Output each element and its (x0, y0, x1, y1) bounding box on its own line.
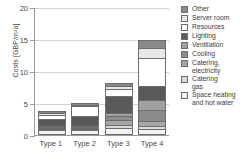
y-axis-tick-label: 20 (20, 4, 28, 13)
bar-segment[interactable] (72, 117, 98, 127)
chart-root: Costs [GBP/m²a] 05101520 Type 1Type 2Typ… (0, 0, 252, 167)
bar-segment[interactable] (139, 41, 165, 49)
legend-item[interactable]: Catering gas (181, 75, 252, 90)
legend-item-label: Other (192, 5, 209, 13)
bar-segment[interactable] (139, 101, 165, 110)
y-axis-title: Costs [GBP/m²a] (12, 6, 19, 96)
x-axis-label: Type 1 (34, 139, 68, 148)
y-axis-tick (30, 136, 35, 137)
legend-swatch-icon (181, 24, 188, 31)
bar-slot (136, 8, 170, 135)
x-axis-labels: Type 1Type 2Type 3Type 4 (34, 139, 169, 148)
legend-swatch-icon (181, 51, 188, 58)
legend-item[interactable]: Space heating and hot water (181, 91, 252, 106)
legend-item[interactable]: Catering, electricity (181, 59, 252, 74)
legend-swatch-icon (181, 92, 188, 99)
bar-group (35, 8, 169, 135)
legend-swatch-icon (181, 76, 188, 83)
legend-item[interactable]: Cooling (181, 50, 252, 58)
legend-swatch-icon (181, 15, 188, 22)
legend-swatch-icon (181, 6, 188, 13)
legend-item[interactable]: Ventilation (181, 41, 252, 49)
x-axis-label: Type 4 (135, 139, 169, 148)
x-axis-label: Type 3 (102, 139, 136, 148)
y-axis-tick-label: 5 (24, 100, 28, 109)
legend-item[interactable]: Server room (181, 14, 252, 22)
legend-item-label: Server room (192, 14, 229, 22)
y-axis-tick-label: 0 (24, 132, 28, 141)
legend-item-label: Ventilation (192, 41, 223, 49)
legend-item-label: Cooling (192, 50, 215, 58)
legend-item[interactable]: Lighting (181, 32, 252, 40)
stacked-bar[interactable] (38, 111, 66, 135)
bar-segment[interactable] (72, 131, 98, 134)
bar-segment[interactable] (139, 130, 165, 134)
legend-item-label: Catering gas (192, 75, 218, 90)
legend-item[interactable]: Other (181, 5, 252, 13)
legend-item-label: Resources (192, 23, 225, 31)
legend-item-label: Space heating and hot water (192, 91, 235, 106)
bar-segment[interactable] (72, 107, 98, 117)
legend-swatch-icon (181, 60, 188, 67)
bar-segment[interactable] (39, 131, 65, 134)
y-axis-tick-label: 15 (20, 36, 28, 45)
stacked-bar[interactable] (71, 103, 99, 135)
legend-item[interactable]: Resources (181, 23, 252, 31)
bar-segment[interactable] (139, 87, 165, 102)
bar-segment[interactable] (139, 49, 165, 59)
bar-slot (69, 8, 103, 135)
legend: OtherServer roomResourcesLightingVentila… (181, 5, 252, 108)
bar-slot (102, 8, 136, 135)
legend-swatch-icon (181, 42, 188, 49)
bar-segment[interactable] (139, 111, 165, 122)
bar-segment[interactable] (106, 129, 132, 134)
stacked-bar[interactable] (105, 83, 133, 135)
legend-item-label: Catering, electricity (192, 59, 220, 74)
bar-segment[interactable] (106, 97, 132, 114)
plot-area: 05101520 (34, 8, 169, 136)
bar-slot (35, 8, 69, 135)
y-axis-tick-label: 10 (20, 68, 28, 77)
stacked-bar[interactable] (138, 40, 166, 135)
bar-segment[interactable] (106, 90, 132, 97)
bar-segment[interactable] (139, 59, 165, 87)
legend-item-label: Lighting (192, 32, 216, 40)
x-axis-label: Type 2 (68, 139, 102, 148)
legend-swatch-icon (181, 33, 188, 40)
bar-segment[interactable] (39, 120, 65, 127)
